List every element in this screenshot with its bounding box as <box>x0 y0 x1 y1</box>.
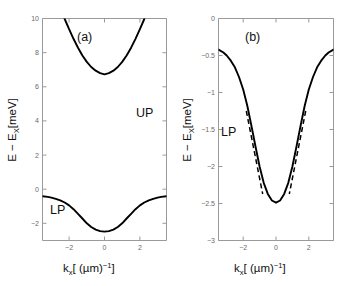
x-tick-a-1: 0 <box>103 244 107 251</box>
y-tick-a-1: 8 <box>35 49 39 56</box>
panel-a: 10 8 6 4 2 0 −2 −2 0 2 (a) U <box>0 0 180 286</box>
y-tick-a-4: 2 <box>35 152 39 159</box>
y-tick-b-3: −1.5 <box>201 126 215 133</box>
x-tick-a-0: −2 <box>65 244 73 251</box>
svg-text:E − EX[meV]: E − EX[meV] <box>6 98 21 162</box>
panel-a-plot: 10 8 6 4 2 0 −2 −2 0 2 (a) U <box>0 0 180 286</box>
panel-b-xlabel: kx[ (µm)−1] <box>234 261 286 277</box>
xlabel-b-end: ] <box>282 262 285 274</box>
svg-text:kx[ (µm)−1]: kx[ (µm)−1] <box>63 261 115 277</box>
branch-label-lp-b: LP <box>221 125 236 139</box>
y-tick-a-3: 4 <box>35 117 39 124</box>
y-tick-a-0: 10 <box>31 15 39 22</box>
xlabel-b-sup: −1 <box>274 261 283 270</box>
panel-a-x-ticklabels: −2 0 2 <box>65 244 142 251</box>
panel-b: 0 −0.5 −1 −1.5 −2 −2.5 −3 −2 0 2 (b) LP <box>177 0 357 286</box>
panel-b-plot: 0 −0.5 −1 −1.5 −2 −2.5 −3 −2 0 2 (b) LP <box>177 0 357 286</box>
panel-b-ylabel: E − EX[meV] <box>181 98 196 162</box>
xlabel-a-end: ] <box>111 262 114 274</box>
ylabel-b-a: E − E <box>181 133 193 162</box>
panel-b-x-ticklabels: −2 0 2 <box>239 244 311 251</box>
panel-a-y-ticklabels: 10 8 6 4 2 0 −2 <box>31 15 39 227</box>
svg-text:kx[ (µm)−1]: kx[ (µm)−1] <box>234 261 286 277</box>
panel-a-label: (a) <box>77 30 92 44</box>
panel-b-y-ticklabels: 0 −0.5 −1 −1.5 −2 −2.5 −3 <box>201 15 215 244</box>
y-tick-b-4: −2 <box>207 163 215 170</box>
xlabel-a-sup: −1 <box>103 261 112 270</box>
x-tick-b-1: 0 <box>274 244 278 251</box>
y-tick-a-5: 0 <box>35 186 39 193</box>
y-tick-b-2: −1 <box>207 89 215 96</box>
panel-a-y-ticks <box>43 19 167 224</box>
figure-canvas: 10 8 6 4 2 0 −2 −2 0 2 (a) U <box>0 0 357 286</box>
ylabel-b-b: [meV] <box>181 98 193 128</box>
x-tick-a-2: 2 <box>138 244 142 251</box>
panel-b-label: (b) <box>245 30 260 44</box>
y-tick-b-6: −3 <box>207 237 215 244</box>
y-tick-b-5: −2.5 <box>201 200 215 207</box>
y-tick-a-6: −2 <box>31 220 39 227</box>
svg-text:E − EX[meV]: E − EX[meV] <box>181 98 196 162</box>
tangent-line-right <box>289 111 305 194</box>
xlabel-a-rest: [ (µm) <box>73 262 103 274</box>
branch-label-up: UP <box>136 106 153 120</box>
x-tick-b-2: 2 <box>307 244 311 251</box>
y-tick-b-1: −0.5 <box>201 52 215 59</box>
curve-up <box>43 0 167 74</box>
y-tick-b-0: 0 <box>211 15 215 22</box>
y-tick-a-2: 6 <box>35 83 39 90</box>
ylabel-a-a: E − E <box>6 133 18 162</box>
branch-label-lp-a: LP <box>50 203 65 217</box>
xlabel-b-rest: [ (µm) <box>244 262 274 274</box>
x-tick-b-0: −2 <box>239 244 247 251</box>
panel-a-ylabel: E − EX[meV] <box>6 98 21 162</box>
ylabel-a-b: [meV] <box>6 98 18 128</box>
panel-a-xlabel: kx[ (µm)−1] <box>63 261 115 277</box>
tangent-line-left <box>246 111 262 194</box>
